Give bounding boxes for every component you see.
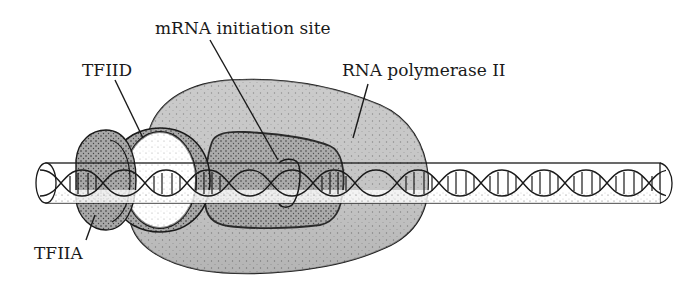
label-rna-polymerase-ii: RNA polymerase II [342, 62, 506, 79]
transcription-complex-diagram: mRNA initiation site TFIID RNA polymeras… [0, 0, 696, 305]
diagram-canvas [0, 0, 696, 305]
label-tfiia: TFIIA [34, 245, 83, 262]
label-mrna-initiation-site: mRNA initiation site [155, 20, 331, 37]
label-tfiid: TFIID [82, 62, 132, 79]
leader-tfiid [115, 80, 143, 138]
